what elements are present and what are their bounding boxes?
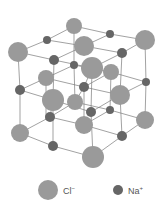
sodium-ion (70, 61, 78, 69)
chloride-ion (74, 36, 94, 56)
sodium-ion (79, 82, 89, 92)
chloride-ion (67, 94, 83, 110)
sodium-ion (106, 30, 114, 38)
sodium-ion (117, 131, 127, 141)
chloride-ion (42, 89, 64, 111)
chloride-ion (75, 116, 93, 134)
chloride-ion (136, 111, 154, 129)
chloride-ion (81, 57, 103, 79)
legend-label-chloride: Cl− (63, 185, 75, 196)
chloride-ion (135, 30, 155, 50)
legend: Cl− Na+ (0, 178, 162, 202)
chloride-ion (110, 85, 130, 105)
sodium-ion (15, 85, 25, 95)
chloride-ion (8, 42, 28, 62)
sodium-ion (43, 36, 51, 44)
sodium-ion (117, 48, 127, 58)
sodium-ion (106, 106, 114, 114)
legend-item-chloride: Cl− (38, 178, 75, 202)
sodium-ion (48, 141, 58, 151)
sodium-ion (142, 78, 150, 86)
chloride-ion-icon (38, 180, 58, 200)
legend-label-sodium: Na+ (128, 185, 143, 196)
chloride-ion (11, 124, 29, 142)
chloride-ion (66, 18, 82, 34)
sodium-ion-icon (113, 185, 123, 195)
legend-item-sodium: Na+ (113, 178, 143, 202)
chloride-ion (82, 146, 104, 168)
chloride-ion (38, 70, 54, 86)
chloride-ion (103, 64, 119, 80)
sodium-ion (45, 112, 55, 122)
sodium-ion (49, 55, 59, 65)
nacl-crystal-lattice (0, 0, 162, 170)
sodium-ion (86, 107, 96, 117)
